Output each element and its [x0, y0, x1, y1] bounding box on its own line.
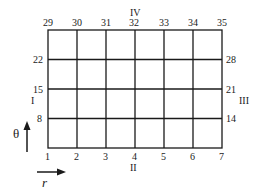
node-label-6: 6	[190, 152, 195, 162]
node-label-35: 35	[217, 18, 227, 28]
node-label-3: 3	[103, 152, 108, 162]
boundary-label-right: III	[239, 96, 249, 106]
theta-arrow-icon	[24, 121, 31, 152]
polar-grid-diagram: 1 2 3 4 5 6 7 29 30 31 32 33 34 35 8 15 …	[0, 0, 259, 193]
node-label-4: 4	[132, 152, 137, 162]
node-label-5: 5	[161, 152, 166, 162]
node-label-7: 7	[219, 152, 224, 162]
boundary-label-bottom: II	[130, 163, 137, 173]
node-label-30: 30	[72, 18, 82, 28]
r-axis-label: r	[42, 178, 47, 188]
node-label-1: 1	[45, 152, 50, 162]
boundary-label-top: IV	[130, 8, 141, 18]
node-label-2: 2	[74, 152, 79, 162]
node-label-22: 22	[33, 55, 43, 65]
node-label-34: 34	[188, 18, 198, 28]
boundary-label-left: I	[31, 96, 34, 106]
node-label-29: 29	[43, 18, 53, 28]
node-label-21: 21	[226, 85, 236, 95]
node-label-15: 15	[33, 85, 43, 95]
node-label-31: 31	[101, 18, 111, 28]
node-label-33: 33	[159, 18, 169, 28]
node-label-28: 28	[226, 55, 236, 65]
node-label-32: 32	[129, 18, 139, 28]
node-label-8: 8	[37, 114, 42, 124]
node-label-14: 14	[226, 114, 236, 124]
theta-axis-label: θ	[13, 129, 19, 139]
